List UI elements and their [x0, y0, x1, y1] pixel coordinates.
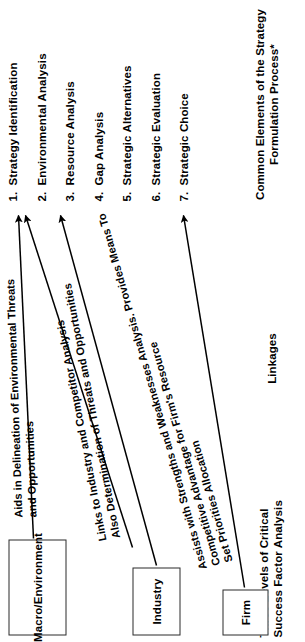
- strategy-element-4: 4. Gap Analysis: [92, 1, 104, 201]
- strategy-element-2-label: Environmental Analysis: [35, 53, 47, 185]
- strategy-element-4-label: Gap Analysis: [92, 111, 104, 185]
- strategy-element-6-number: 6.: [149, 185, 161, 201]
- level-box-firm: Firm: [222, 589, 268, 635]
- strategy-element-6: 6. Strategic Evaluation: [149, 1, 161, 201]
- level-box-industry: Industry: [132, 567, 180, 635]
- heading-common-elements: Common Elements of the Strategy Formulat…: [252, 1, 280, 207]
- strategy-element-7-label: Strategic Choice: [177, 93, 189, 185]
- strategy-element-1-label: Strategy Identification: [6, 62, 18, 185]
- strategy-element-3-label: Resource Analysis: [63, 81, 75, 185]
- heading-linkages: Linkages: [264, 313, 278, 403]
- level-box-macro-environment-label: Macro/Environment: [31, 532, 43, 641]
- strategy-element-2-number: 2.: [35, 185, 47, 201]
- strategy-element-7-number: 7.: [177, 185, 189, 201]
- strategy-element-2: 2. Environmental Analysis: [35, 1, 47, 201]
- strategy-element-1-number: 1.: [6, 185, 18, 201]
- level-box-industry-label: Industry: [150, 578, 162, 624]
- level-box-macro-environment: Macro/Environment: [8, 539, 66, 635]
- strategy-element-5-number: 5.: [120, 185, 132, 201]
- strategy-element-3: 3. Resource Analysis: [63, 1, 75, 201]
- strategy-element-3-number: 3.: [63, 185, 75, 201]
- strategy-element-7: 7. Strategic Choice: [177, 1, 189, 201]
- strategy-element-5-label: Strategic Alternatives: [120, 65, 132, 185]
- linkage-caption-macro: Aids in Delineation of Environmental Thr…: [1, 197, 39, 518]
- strategy-elements-list: 1. Strategy Identification 2. Environmen…: [6, 1, 206, 201]
- strategy-element-6-label: Strategic Evaluation: [149, 72, 161, 185]
- strategy-element-4-number: 4.: [92, 185, 104, 201]
- level-box-firm-label: Firm: [239, 599, 251, 624]
- strategy-element-5: 5. Strategic Alternatives: [120, 1, 132, 201]
- strategy-element-1: 1. Strategy Identification: [6, 1, 18, 201]
